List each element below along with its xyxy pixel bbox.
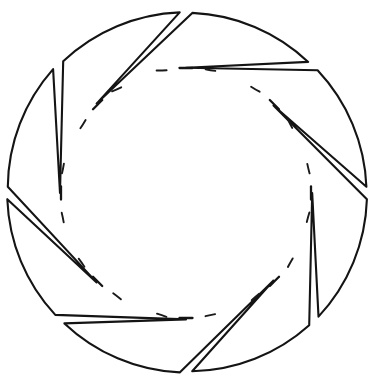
inner-circle-dash <box>251 87 260 92</box>
inner-circle-dash <box>206 69 216 71</box>
inner-circle-dash <box>307 164 309 174</box>
inner-circle-dash <box>80 120 85 128</box>
inner-circle-dash <box>307 213 310 223</box>
rosette-figure: Eight-lobed rosette outline Hand-drawn l… <box>0 0 374 387</box>
inner-circle-dash <box>113 293 121 299</box>
inner-circle-dash <box>62 213 64 223</box>
inner-circle-dash <box>157 314 166 317</box>
inner-circle-dash <box>206 314 216 316</box>
figure-canvas: Eight-lobed rosette outline Hand-drawn l… <box>0 0 374 387</box>
inner-dashed-circle <box>62 69 310 316</box>
inner-circle-dash <box>62 164 64 174</box>
inner-circle-dash <box>288 258 293 267</box>
